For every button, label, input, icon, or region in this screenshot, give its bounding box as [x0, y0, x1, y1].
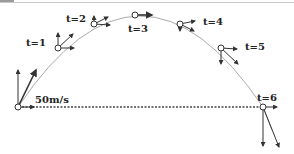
- launch-speed-label: 50m/s: [35, 94, 69, 105]
- velocity-vectors: [18, 15, 279, 147]
- label-t6: t=6: [257, 92, 277, 103]
- label-t2: t=2: [66, 13, 86, 24]
- label-t5: t=5: [245, 41, 265, 52]
- label-t1: t=1: [26, 37, 46, 48]
- label-t4: t=4: [203, 16, 223, 27]
- label-t3: t=3: [128, 23, 148, 34]
